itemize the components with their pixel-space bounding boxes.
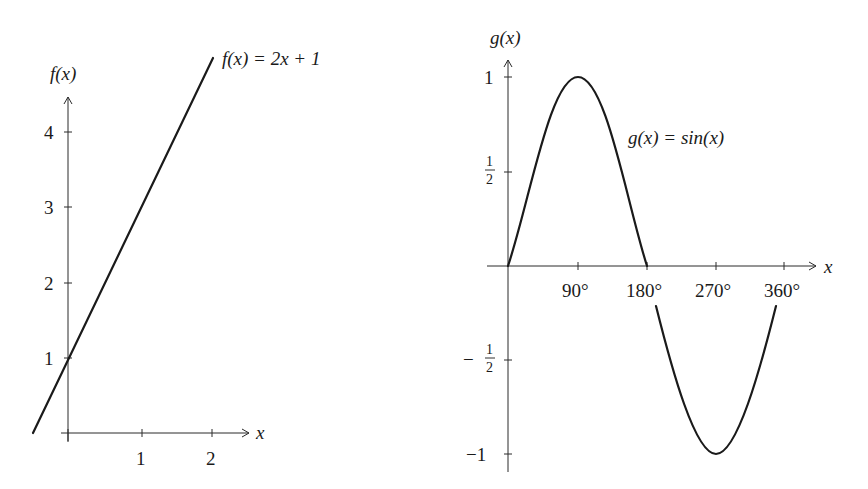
y-tick-label: 1 — [44, 348, 54, 369]
y-tick-label-half: 1 2 — [485, 154, 495, 187]
sine-chart: 1 1 2 − 1 2 −1 90° 180° 270° 360° g(x) x — [463, 27, 833, 472]
linear-chart: 4 3 2 1 1 2 f(x) x f(x) = 2x + 1 — [33, 48, 320, 469]
svg-text:1: 1 — [486, 154, 493, 169]
y-axis-label: f(x) — [50, 63, 76, 85]
x-tick-label: 1 — [136, 448, 146, 469]
y-tick-label-neg-1: −1 — [466, 444, 486, 465]
x-tick-label: 270° — [695, 280, 731, 301]
y-tick-label: 2 — [44, 273, 54, 294]
linear-function-line — [33, 58, 213, 433]
sine-curve-lower — [656, 306, 776, 454]
x-axis-label: x — [255, 422, 265, 443]
svg-text:2: 2 — [486, 172, 493, 187]
x-axis-label: x — [823, 256, 833, 277]
function-annotation: g(x) = sin(x) — [628, 127, 724, 149]
sine-curve-upper — [508, 77, 647, 266]
function-annotation: f(x) = 2x + 1 — [222, 48, 320, 70]
y-tick-label: 4 — [44, 122, 54, 143]
x-tick-label: 180° — [626, 280, 662, 301]
svg-text:1: 1 — [486, 342, 493, 357]
x-tick-label: 2 — [206, 448, 216, 469]
y-tick-label: 3 — [44, 197, 54, 218]
y-tick-label-neg-half: − 1 2 — [463, 342, 495, 375]
x-tick-label: 90° — [562, 280, 589, 301]
y-tick-label-1: 1 — [484, 67, 494, 88]
x-ticks — [68, 429, 212, 441]
y-axis-label: g(x) — [490, 27, 521, 49]
svg-text:−: − — [463, 349, 474, 370]
svg-text:2: 2 — [486, 360, 493, 375]
x-tick-label: 360° — [764, 280, 800, 301]
charts-canvas: 4 3 2 1 1 2 f(x) x f(x) = 2x + 1 1 — [0, 0, 868, 489]
